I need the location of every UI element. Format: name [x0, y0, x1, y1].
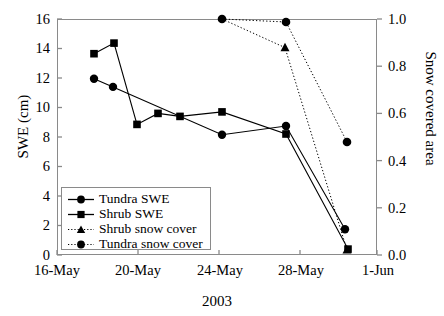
legend-key-triangle-dotted-icon: [66, 222, 96, 235]
chart-legend: Tundra SWE Shrub SWE Shrub snow cover: [61, 187, 211, 250]
legend-key-square-solid-icon: [66, 207, 96, 220]
legend-label: Tundra snow cover: [96, 237, 203, 251]
chart-figure: 16 14 12 10 8 6 4 2 0 1.0 0.8 0.6 0.4 0.…: [0, 0, 444, 316]
x-axis-title: 2003: [157, 293, 277, 310]
y-tick-label: 16: [4, 12, 50, 27]
x-tick-label: 16-May: [14, 263, 100, 278]
x-tick-label: 28-May: [258, 263, 344, 278]
y2-axis-title: Snow covered area: [422, 19, 439, 199]
y-tick-label: 14: [4, 41, 50, 56]
legend-key-circle-dotted-icon: [66, 237, 96, 250]
legend-item-tundra-snow-cover: Tundra snow cover: [66, 236, 206, 251]
legend-key-circle-solid-icon: [66, 192, 96, 205]
y-axis-title: SWE (cm): [15, 57, 32, 197]
legend-label: Tundra SWE: [96, 192, 169, 206]
y2-tick-label: 0.0: [388, 248, 434, 263]
legend-item-tundra-swe: Tundra SWE: [66, 191, 206, 206]
x-tick-label: 20-May: [95, 263, 181, 278]
y-tick-label: 0: [4, 248, 50, 263]
legend-label: Shrub snow cover: [96, 222, 197, 236]
x-tick-label: 24-May: [177, 263, 263, 278]
legend-label: Shrub SWE: [96, 207, 163, 221]
y-tick-label: 2: [4, 218, 50, 233]
y2-tick-label: 0.2: [388, 201, 434, 216]
legend-item-shrub-swe: Shrub SWE: [66, 206, 206, 221]
legend-item-shrub-snow-cover: Shrub snow cover: [66, 221, 206, 236]
x-tick-label: 1-Jun: [335, 263, 421, 278]
